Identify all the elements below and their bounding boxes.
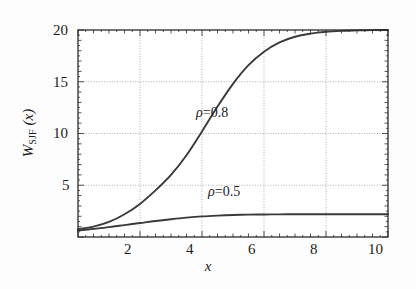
x-tick-label-8: 8 — [310, 242, 318, 257]
rho-value-0-8: =0.8 — [203, 105, 228, 120]
y-axis-title-subscript: SJF — [27, 129, 38, 145]
figure-container: 20 15 10 5 2 4 6 8 10 WSJF (x) x ρ=0.8 ρ… — [0, 0, 416, 289]
y-axis-title-main: W — [20, 145, 36, 158]
y-tick-label-10: 10 — [53, 126, 68, 141]
rho-symbol-0-5: ρ — [208, 184, 215, 199]
x-tick-label-6: 6 — [248, 242, 256, 257]
rho-value-0-5: =0.5 — [215, 184, 240, 199]
y-tick-label-15: 15 — [53, 75, 68, 90]
rho-symbol-0-8: ρ — [196, 105, 203, 120]
y-tick-label-5: 5 — [62, 178, 70, 193]
x-tick-label-4: 4 — [186, 242, 194, 257]
chart-canvas — [0, 0, 416, 289]
y-axis-title-argument: (x) — [20, 109, 36, 129]
y-tick-label-20: 20 — [53, 23, 68, 38]
x-tick-label-2: 2 — [124, 242, 132, 257]
x-tick-label-10: 10 — [368, 242, 383, 257]
y-axis-title: WSJF (x) — [14, 78, 44, 188]
x-axis-title: x — [0, 258, 416, 275]
rho-0-8-label: ρ=0.8 — [196, 106, 228, 120]
rho-0-5-label: ρ=0.5 — [208, 185, 240, 199]
